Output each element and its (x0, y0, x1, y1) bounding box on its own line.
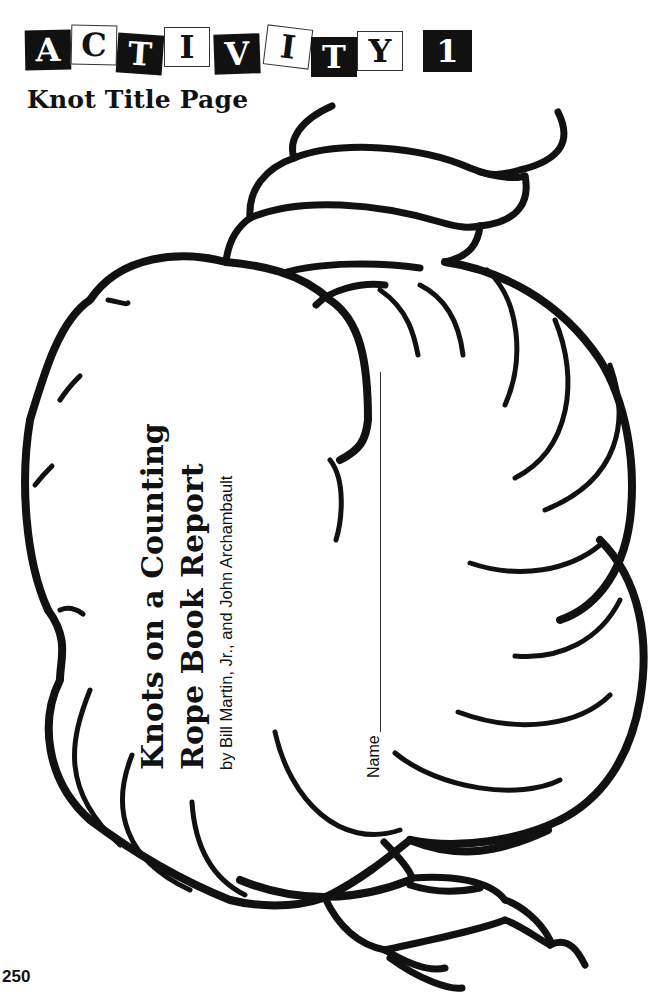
bottom-rope-strands (325, 842, 585, 988)
name-label: Name (365, 735, 383, 778)
book-title-line-2: Rope Book Report (173, 370, 213, 770)
book-title-block: Knots on a Counting Rope Book Report by … (133, 370, 237, 770)
name-input-line[interactable] (380, 372, 381, 732)
name-field-block: Name (365, 358, 383, 778)
top-rope-strands (226, 106, 564, 305)
knot-body-outline (25, 256, 644, 905)
knot-illustration (0, 0, 670, 997)
page-number: 250 (2, 967, 30, 987)
book-title-line-1: Knots on a Counting (133, 370, 173, 770)
book-authors: by Bill Martin, Jr., and John Archambaul… (215, 370, 237, 770)
